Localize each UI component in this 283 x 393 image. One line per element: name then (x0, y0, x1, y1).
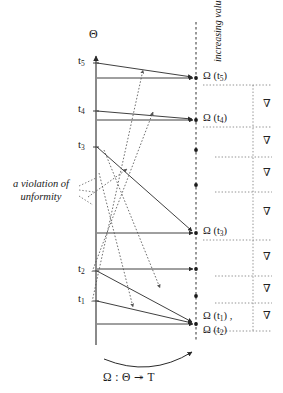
codomain-label-omega-t4: Ω (t4) (203, 113, 227, 125)
omega-t5-sub: 5 (220, 74, 224, 83)
violation-annotation-line1: a violation of (13, 178, 69, 189)
violation-annotation-line2: unformity (21, 191, 62, 202)
nabla-icon-4: ∇ (263, 205, 271, 218)
codomain-label-omega-t3: Ω (t3) (203, 226, 227, 238)
domain-label-t3: t3 (78, 139, 85, 152)
domain-label-t4: t4 (78, 103, 85, 116)
codomain-label-omega-t1: Ω (t1) , (203, 311, 232, 323)
increasing-values-italic: increasing values in (212, 0, 223, 62)
domain-label-t1: t1 (78, 293, 85, 306)
nabla-icon-5: ∇ (263, 250, 271, 263)
omega-t2-sub: 2 (220, 328, 224, 337)
codomain-label-omega-t2: Ω (t2) (203, 325, 227, 337)
increasing-values-label: increasing values in T (212, 0, 225, 62)
domain-label-t1-sub: 1 (81, 297, 85, 306)
violation-annotation: a violation ofunformity (0, 178, 82, 204)
nabla-icon-2: ∇ (263, 134, 271, 147)
mapping-arrows (97, 63, 192, 323)
map-label: Ω : Θ ↠ T (103, 372, 155, 384)
domain-label-t5-sub: 5 (81, 59, 85, 68)
nabla-icon-1: ∇ (263, 97, 271, 110)
theta-axis-label: Θ (89, 28, 98, 40)
nabla-icon-7: ∇ (263, 309, 271, 322)
domain-label-t4-sub: 4 (81, 107, 85, 116)
omega-t4-sub: 4 (220, 116, 224, 125)
nabla-icon-6: ∇ (263, 282, 271, 295)
diagram-figure: Θ t5 t4 t3 t2 t1 Ω (t5) Ω (t4) Ω (t3) Ω … (0, 0, 283, 393)
map-arc (104, 352, 192, 367)
domain-label-t5: t5 (78, 55, 85, 68)
domain-label-t3-sub: 3 (81, 143, 85, 152)
domain-label-t2-sub: 2 (81, 267, 85, 276)
nabla-icon-3: ∇ (263, 166, 271, 179)
omega-t1-sub: 1 (220, 314, 224, 323)
domain-label-t2: t2 (78, 263, 85, 276)
omega-t3-sub: 3 (220, 229, 224, 238)
violation-arrows (88, 70, 160, 307)
codomain-label-omega-t5: Ω (t5) (203, 71, 227, 83)
